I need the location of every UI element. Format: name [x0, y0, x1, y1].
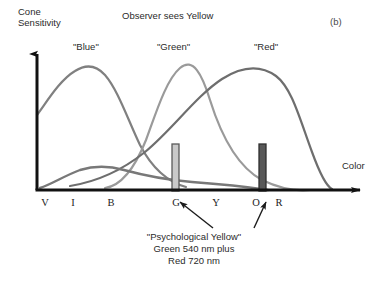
- x-tick-label-o: O: [252, 197, 260, 208]
- curve-label-blue: "Blue": [73, 41, 99, 52]
- curve-rod-sensitivity: [40, 167, 268, 190]
- annotation-caption: "Psychological Yellow" Green 540 nm plus…: [0, 231, 388, 267]
- curve-blue-cone: [37, 66, 186, 187]
- x-tick-label-v: V: [41, 197, 49, 208]
- x-axis-title: Color: [342, 160, 365, 171]
- caption-line-1: "Psychological Yellow": [0, 231, 388, 243]
- figure-title: Observer sees Yellow: [122, 10, 213, 21]
- y-axis-title-line1: Cone: [18, 6, 41, 17]
- panel-letter: (b): [330, 16, 342, 27]
- curve-label-red: "Red": [254, 41, 278, 52]
- x-tick-label-i: I: [71, 197, 75, 208]
- cone-sensitivity-figure: ConeSensitivity Observer sees Yellow (b)…: [0, 0, 388, 283]
- annotation-arrow-to-green-bar: [180, 202, 213, 228]
- x-tick-label-b: B: [107, 197, 114, 208]
- y-axis-title: ConeSensitivity: [18, 6, 61, 28]
- marker-bar-green-540nm: [172, 144, 179, 191]
- curve-red-cone: [70, 68, 332, 189]
- x-tick-label-g: G: [172, 197, 180, 208]
- curve-green-cone: [105, 65, 310, 191]
- curve-label-green: "Green": [157, 41, 190, 52]
- x-tick-label-r: R: [275, 197, 282, 208]
- x-tick-label-y: Y: [212, 197, 220, 208]
- y-axis-title-line2: Sensitivity: [18, 17, 61, 28]
- caption-line-3: Red 720 nm: [0, 255, 388, 267]
- caption-line-2: Green 540 nm plus: [0, 243, 388, 255]
- marker-bar-red-720nm: [259, 144, 266, 191]
